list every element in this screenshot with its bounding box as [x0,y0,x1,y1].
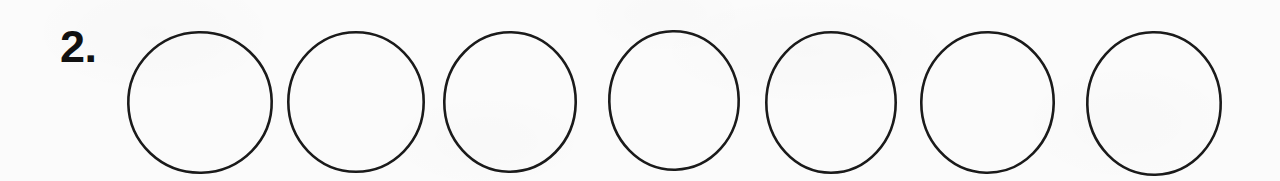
circle-row [0,0,1280,181]
circle-outline-icon [287,31,425,173]
circle-2[interactable] [287,31,425,173]
circle-7[interactable] [1086,31,1222,176]
circle-1[interactable] [127,31,273,174]
circle-outline-icon [1086,31,1222,176]
circle-outline-icon [127,31,273,174]
worksheet-exercise-row: 2. [0,0,1280,181]
circle-6[interactable] [920,31,1055,174]
circle-5[interactable] [765,31,897,174]
circle-4[interactable] [608,30,740,171]
circle-outline-icon [920,31,1055,174]
circle-outline-icon [443,31,577,173]
circle-3[interactable] [443,31,577,173]
circle-outline-icon [765,31,897,174]
circle-outline-icon [608,30,740,171]
